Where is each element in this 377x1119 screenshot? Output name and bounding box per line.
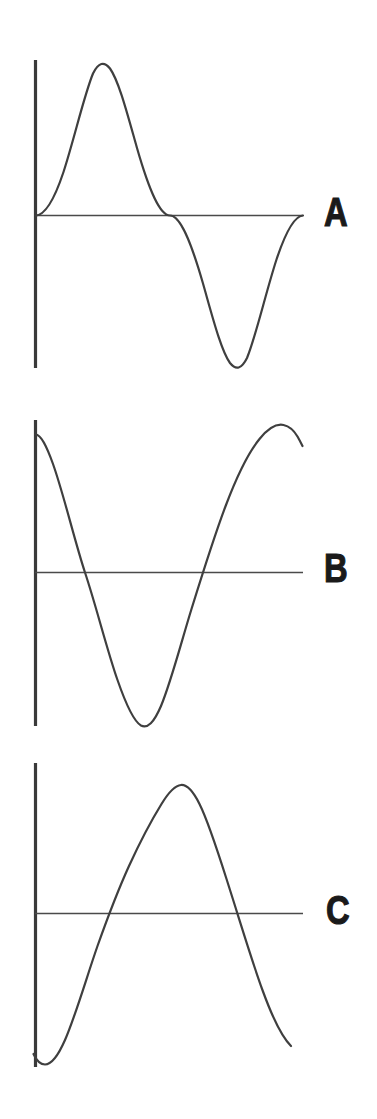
panel-label-C: C (326, 890, 349, 930)
panel-label-A: A (324, 192, 347, 232)
figure-background (0, 0, 377, 1119)
panel-label-B: B (324, 548, 347, 588)
waveform-figure (0, 0, 377, 1119)
